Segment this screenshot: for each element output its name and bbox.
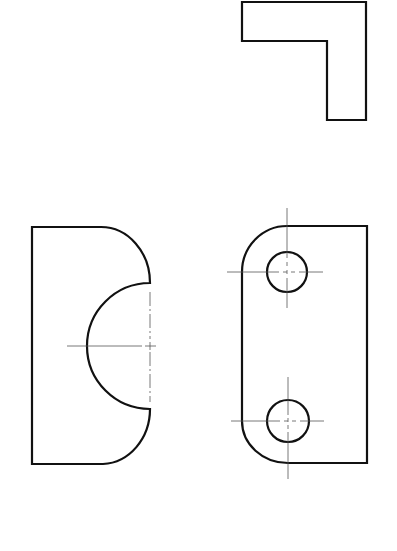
- top-view-outline: [242, 2, 366, 120]
- technical-drawing: [0, 0, 397, 551]
- left-view-outline: [32, 227, 150, 464]
- left-view: [32, 227, 156, 464]
- front-view: [227, 208, 367, 479]
- top-view: [242, 2, 366, 120]
